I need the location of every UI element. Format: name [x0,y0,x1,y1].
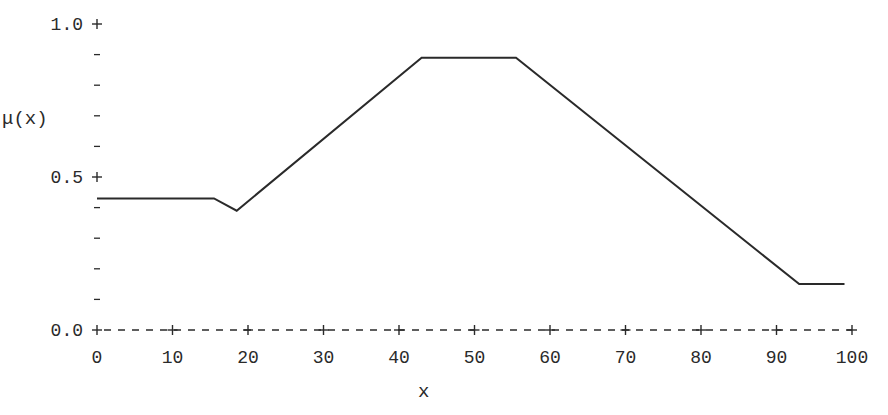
y-tick-label: 0.5 [51,168,83,188]
x-tick-label: 60 [539,348,561,368]
x-tick-label: 50 [464,348,486,368]
y-axis: 0.00.51.0 [51,15,102,341]
x-tick-label: 30 [313,348,335,368]
x-tick-label: 100 [836,348,868,368]
x-tick-label: 0 [92,348,103,368]
y-tick-label: 0.0 [51,321,83,341]
x-tick-label: 70 [615,348,637,368]
x-axis: 0102030405060708090100 [92,325,869,368]
y-tick-label: 1.0 [51,15,83,35]
membership-function-chart: 0.00.51.0 0102030405060708090100 μ(x) x [0,0,888,415]
y-axis-label: μ(x) [2,108,48,130]
x-axis-label: x [418,381,429,403]
x-tick-label: 80 [690,348,712,368]
x-tick-label: 40 [388,348,410,368]
x-tick-label: 10 [162,348,184,368]
x-tick-label: 90 [766,348,788,368]
series-line-mu [97,58,845,284]
x-tick-label: 20 [237,348,259,368]
